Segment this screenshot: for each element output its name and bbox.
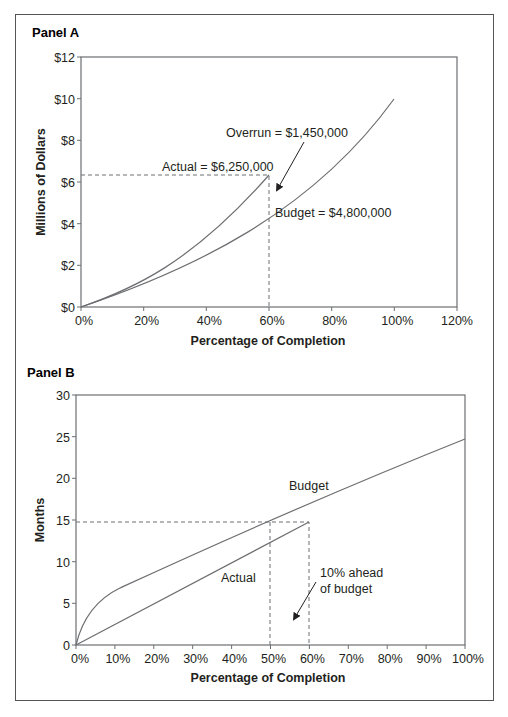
x-tick-label: 80% [322,314,347,328]
figure-svg: Panel A $0 $2 $4 $6 $8 $10 $12 [0,0,508,717]
y-tick-label: 25 [56,431,70,445]
x-tick-label: 80% [378,652,403,666]
ahead-arrow-icon [294,582,316,619]
panel-a-y-axis: $0 $2 $4 $6 $8 $10 $12 [54,51,81,315]
x-tick-label: 50% [261,652,286,666]
annotation-overrun: Overrun = $1,450,000 [226,126,348,140]
x-tick-label: 70% [339,652,364,666]
x-tick-label: 60% [300,652,325,666]
panel-a-x-axis: 0% 20% 40% 60% 80% 100% 120% [75,307,473,328]
y-tick-label: $12 [54,51,75,65]
panel-b-y-axis: 0 5 10 15 20 25 30 [56,389,76,653]
annotation-budget: Budget = $4,800,000 [275,206,391,220]
x-tick-label: 10% [105,652,130,666]
panel-a-title: Panel A [32,25,80,40]
panel-a-reference-lines [81,175,269,307]
panel-b: Panel B 0 5 10 15 20 25 30 [27,365,484,685]
x-tick-label: 0% [71,652,89,666]
annotation-ahead-line1: 10% ahead [320,566,383,580]
y-tick-label: $0 [61,301,75,315]
y-tick-label: $10 [54,93,75,107]
x-tick-label: 30% [183,652,208,666]
x-tick-label: 120% [441,314,473,328]
y-tick-label: $6 [61,176,75,190]
panel-a-actual-curve [81,175,269,307]
panel-b-x-axis: 0% 10% 20% 30% 40% 50% 60% 70% 80% 90% 1… [71,645,484,666]
y-tick-label: 0 [63,639,70,653]
panel-b-x-axis-title: Percentage of Completion [191,671,346,685]
x-tick-label: 20% [134,314,159,328]
y-tick-label: $4 [61,218,75,232]
y-tick-label: $2 [61,259,75,273]
annotation-ahead-line2: of budget [320,582,373,596]
panel-b-actual-line [76,522,309,645]
y-tick-label: $8 [61,134,75,148]
panel-a: Panel A $0 $2 $4 $6 $8 $10 $12 [32,25,473,348]
x-tick-label: 100% [452,652,484,666]
annotation-actual: Actual [221,571,256,585]
panel-b-title: Panel B [27,365,75,380]
y-tick-label: 10 [56,556,70,570]
x-tick-label: 40% [197,314,222,328]
overrun-arrow-icon [277,142,304,190]
x-tick-label: 60% [259,314,284,328]
y-tick-label: 15 [56,514,70,528]
panel-a-y-axis-title: Millions of Dollars [34,128,48,236]
x-tick-label: 40% [222,652,247,666]
y-tick-label: 30 [56,389,70,403]
x-tick-label: 0% [75,314,93,328]
x-tick-label: 20% [144,652,169,666]
panel-a-x-axis-title: Percentage of Completion [191,334,346,348]
panel-b-y-axis-title: Months [33,498,47,542]
x-tick-label: 90% [417,652,442,666]
x-tick-label: 100% [381,314,413,328]
y-tick-label: 20 [56,472,70,486]
y-tick-label: 5 [63,597,70,611]
annotation-actual: Actual = $6,250,000 [162,160,274,174]
annotation-budget: Budget [289,479,329,493]
